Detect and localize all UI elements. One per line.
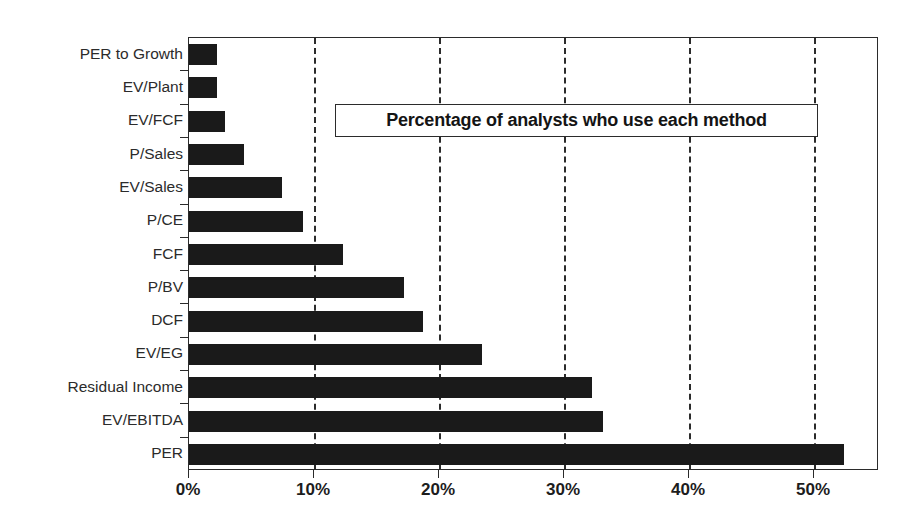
category-label: EV/FCF	[3, 112, 183, 128]
gridline-20	[439, 38, 441, 469]
category-label: Residual Income	[3, 379, 183, 395]
bar	[189, 77, 217, 98]
category-label: DCF	[3, 312, 183, 328]
bar	[189, 111, 225, 132]
y-axis-tick	[180, 137, 189, 138]
y-axis-tick	[180, 437, 189, 438]
y-axis-tick	[180, 370, 189, 371]
bar	[189, 244, 343, 265]
category-label: EV/Plant	[3, 79, 183, 95]
y-axis-tick	[180, 403, 189, 404]
x-axis-tick-label: 50%	[768, 480, 858, 500]
category-label: PER	[3, 445, 183, 461]
y-axis-tick	[180, 303, 189, 304]
bar	[189, 277, 404, 298]
bar	[189, 44, 217, 65]
bar	[189, 211, 303, 232]
y-axis-tick	[180, 237, 189, 238]
y-axis-tick	[180, 70, 189, 71]
gridline-50	[814, 38, 816, 469]
x-axis-tick-label: 20%	[393, 480, 483, 500]
chart-title-text: Percentage of analysts who use each meth…	[386, 110, 767, 131]
bar	[189, 177, 282, 198]
x-axis-tick-label: 30%	[518, 480, 608, 500]
category-label: EV/EG	[3, 345, 183, 361]
bar	[189, 444, 844, 465]
y-axis-tick	[180, 104, 189, 105]
chart-title-box: Percentage of analysts who use each meth…	[335, 104, 818, 137]
y-axis-tick	[180, 337, 189, 338]
category-label: EV/Sales	[3, 179, 183, 195]
plot-area	[188, 37, 878, 470]
x-axis-tick	[563, 470, 564, 478]
gridline-30	[564, 38, 566, 469]
x-axis-tick	[688, 470, 689, 478]
x-axis-tick	[313, 470, 314, 478]
bar	[189, 311, 423, 332]
x-axis-tick	[188, 470, 189, 478]
category-label: FCF	[3, 246, 183, 262]
x-axis-tick	[438, 470, 439, 478]
y-axis-tick	[180, 170, 189, 171]
x-axis-tick-label: 40%	[643, 480, 733, 500]
bar	[189, 344, 482, 365]
bar	[189, 377, 592, 398]
x-axis-tick-label: 0%	[143, 480, 233, 500]
gridline-40	[689, 38, 691, 469]
chart-page: PER to GrowthEV/PlantEV/FCFP/SalesEV/Sal…	[0, 0, 911, 531]
category-label: P/BV	[3, 279, 183, 295]
category-label: P/CE	[3, 212, 183, 228]
bar	[189, 144, 244, 165]
x-axis-tick	[813, 470, 814, 478]
category-label: EV/EBITDA	[3, 412, 183, 428]
bar	[189, 411, 603, 432]
category-axis-labels: PER to GrowthEV/PlantEV/FCFP/SalesEV/Sal…	[0, 0, 183, 531]
y-axis-tick	[180, 204, 189, 205]
category-label: P/Sales	[3, 146, 183, 162]
category-label: PER to Growth	[3, 46, 183, 62]
y-axis-tick	[180, 270, 189, 271]
x-axis-tick-label: 10%	[268, 480, 358, 500]
